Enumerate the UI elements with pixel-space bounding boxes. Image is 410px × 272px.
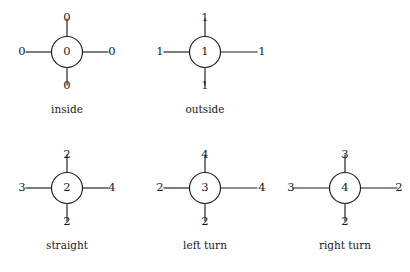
left-value-straight: 3 (18, 180, 25, 194)
top-value-straight: 2 (63, 147, 70, 161)
caption-right-turn: right turn (319, 239, 371, 251)
right-value-left-turn: 4 (258, 180, 265, 194)
diagram-outside: 1 1 1 1 1 outside (156, 10, 265, 115)
figure-root: 0 0 0 0 0 inside 1 1 1 1 1 outside (0, 0, 410, 272)
top-value-right-turn: 3 (341, 147, 348, 161)
center-value-straight: 2 (63, 180, 70, 194)
right-value-right-turn: 2 (395, 180, 402, 194)
top-value-outside: 1 (201, 10, 208, 24)
center-value-inside: 0 (63, 44, 70, 58)
center-value-outside: 1 (201, 44, 208, 58)
right-value-inside: 0 (108, 44, 115, 58)
top-value-inside: 0 (63, 10, 70, 24)
center-value-left-turn: 3 (201, 180, 208, 194)
right-value-outside: 1 (258, 44, 265, 58)
diagram-left-turn: 3 4 2 4 2 left turn (156, 147, 265, 251)
bottom-value-outside: 1 (201, 78, 208, 92)
left-value-right-turn: 3 (287, 180, 294, 194)
caption-left-turn: left turn (183, 239, 227, 251)
diagram-right-turn: 4 3 3 2 2 right turn (287, 147, 402, 251)
center-value-right-turn: 4 (341, 180, 348, 194)
bottom-value-inside: 0 (63, 78, 70, 92)
bottom-value-right-turn: 2 (341, 214, 348, 228)
diagram-straight: 2 2 3 4 2 straight (18, 147, 115, 251)
diagram-inside: 0 0 0 0 0 inside (18, 10, 115, 115)
left-value-outside: 1 (156, 44, 163, 58)
caption-outside: outside (186, 103, 225, 115)
caption-straight: straight (46, 239, 89, 251)
node-valence-diagram-canvas: 0 0 0 0 0 inside 1 1 1 1 1 outside (0, 0, 410, 272)
right-value-straight: 4 (108, 180, 115, 194)
bottom-value-left-turn: 2 (201, 214, 208, 228)
left-value-inside: 0 (18, 44, 25, 58)
bottom-value-straight: 2 (63, 214, 70, 228)
left-value-left-turn: 2 (156, 180, 163, 194)
top-value-left-turn: 4 (201, 147, 208, 161)
caption-inside: inside (51, 103, 83, 115)
